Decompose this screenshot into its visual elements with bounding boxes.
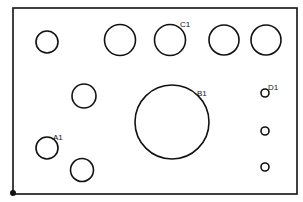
hole bbox=[72, 84, 96, 108]
hole bbox=[251, 25, 281, 55]
labels-group: C1B1D1A1 bbox=[53, 20, 279, 142]
hole-label-a1: A1 bbox=[53, 133, 63, 142]
hole bbox=[261, 127, 269, 135]
hole-c1 bbox=[155, 25, 186, 56]
hole bbox=[36, 31, 58, 53]
hole-label-d1: D1 bbox=[268, 83, 279, 92]
hole-pattern-diagram: C1B1D1A1 bbox=[0, 0, 303, 202]
hole-label-b1: B1 bbox=[197, 89, 207, 98]
origin-marker-icon bbox=[10, 190, 16, 196]
holes-group bbox=[36, 25, 281, 182]
hole bbox=[105, 25, 136, 56]
hole bbox=[209, 25, 239, 55]
hole-label-c1: C1 bbox=[180, 20, 191, 29]
hole bbox=[261, 163, 269, 171]
hole bbox=[71, 159, 94, 182]
